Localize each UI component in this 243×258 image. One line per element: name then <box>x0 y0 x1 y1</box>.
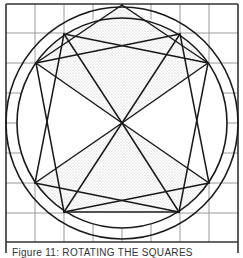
stipple-top-region <box>36 5 208 123</box>
figure-caption: Figure 11: ROTATING THE SQUARES <box>12 248 193 258</box>
